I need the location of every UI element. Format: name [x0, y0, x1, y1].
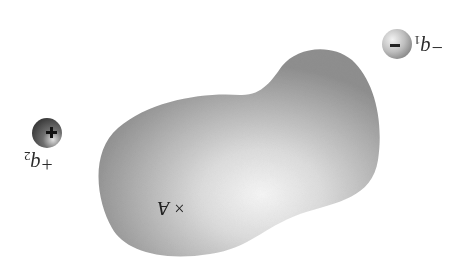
charge-label-q2-text: +q — [31, 153, 55, 175]
point-a: × A — [158, 199, 185, 218]
charge-label-q1: −q1 — [414, 34, 444, 58]
positive-charge-q2 — [32, 118, 62, 148]
diagram-graphics — [0, 0, 468, 279]
charge-label-q2: +q2 — [24, 150, 54, 174]
minus-sign-icon — [390, 44, 400, 47]
charge-label-q1-subscript: 1 — [414, 33, 421, 48]
charge-region-blob — [99, 49, 380, 256]
charge-label-q1-text: −q — [421, 37, 445, 59]
charge-label-q2-subscript: 2 — [24, 149, 31, 164]
point-a-label: A — [158, 198, 170, 219]
negative-charge-q1 — [382, 29, 412, 59]
point-a-marker-icon: × — [174, 198, 184, 218]
diagram-canvas: −q1 +q2 × A — [0, 0, 468, 279]
